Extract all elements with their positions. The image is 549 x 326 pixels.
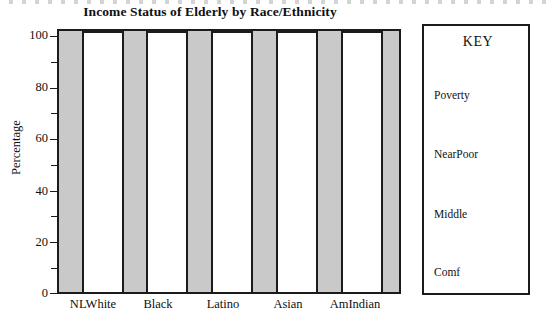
bar-nlwhite[interactable] [82, 31, 124, 292]
y-tick-mark-40 [50, 191, 57, 192]
y-tick-label-0: 0 [18, 287, 48, 299]
legend-item-nearpoor[interactable]: NearPoor [434, 148, 478, 160]
y-tick-label-100: 100 [18, 29, 48, 41]
y-axis-title: Percentage [9, 103, 24, 193]
x-tick-label-nlwhite: NLWhite [61, 297, 125, 312]
x-tick-label-asian: Asian [256, 297, 320, 312]
bar-asian[interactable] [276, 31, 318, 292]
chart-title: Income Status of Elderly by Race/Ethnici… [0, 4, 420, 20]
legend-item-comf[interactable]: Comf [434, 266, 460, 278]
bar-latino[interactable] [211, 31, 253, 292]
y-tick-mark-0 [50, 293, 57, 294]
legend-title: KEY [424, 34, 532, 50]
legend-item-poverty[interactable]: Poverty [434, 89, 470, 101]
legend-item-middle[interactable]: Middle [434, 208, 467, 220]
x-tick-label-black: Black [126, 297, 190, 312]
x-tick-label-amindian: AmIndian [318, 297, 392, 312]
y-tick-label-80: 80 [18, 81, 48, 93]
y-tick-mark-20 [50, 242, 57, 243]
y-tick-mark-80 [50, 88, 57, 89]
bar-amindian[interactable] [341, 31, 383, 292]
x-tick-label-latino: Latino [191, 297, 255, 312]
y-tick-label-40: 40 [18, 185, 48, 197]
plot-area [57, 29, 401, 294]
y-tick-mark-60 [50, 139, 57, 140]
bar-black[interactable] [146, 31, 188, 292]
y-tick-label-60: 60 [18, 132, 48, 144]
y-tick-mark-100 [50, 36, 57, 37]
y-tick-label-20: 20 [18, 236, 48, 248]
legend-box: KEY Poverty NearPoor Middle Comf [422, 24, 530, 295]
